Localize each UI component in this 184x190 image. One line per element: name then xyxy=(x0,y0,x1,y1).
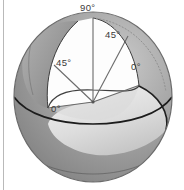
angle-label-right-45: 45° xyxy=(105,30,121,40)
angle-label-right-0: 0° xyxy=(131,62,141,72)
angle-label-left-0: 0° xyxy=(51,104,61,114)
origin-point-marker xyxy=(91,100,94,103)
sphere-diagram-figure: 90° 45° 45° 0° 0° xyxy=(0,0,184,190)
sphere-body xyxy=(14,12,172,190)
angle-label-left-45: 45° xyxy=(56,58,72,68)
angle-label-90: 90° xyxy=(80,3,96,13)
sphere-diagram-graphic xyxy=(0,0,184,190)
